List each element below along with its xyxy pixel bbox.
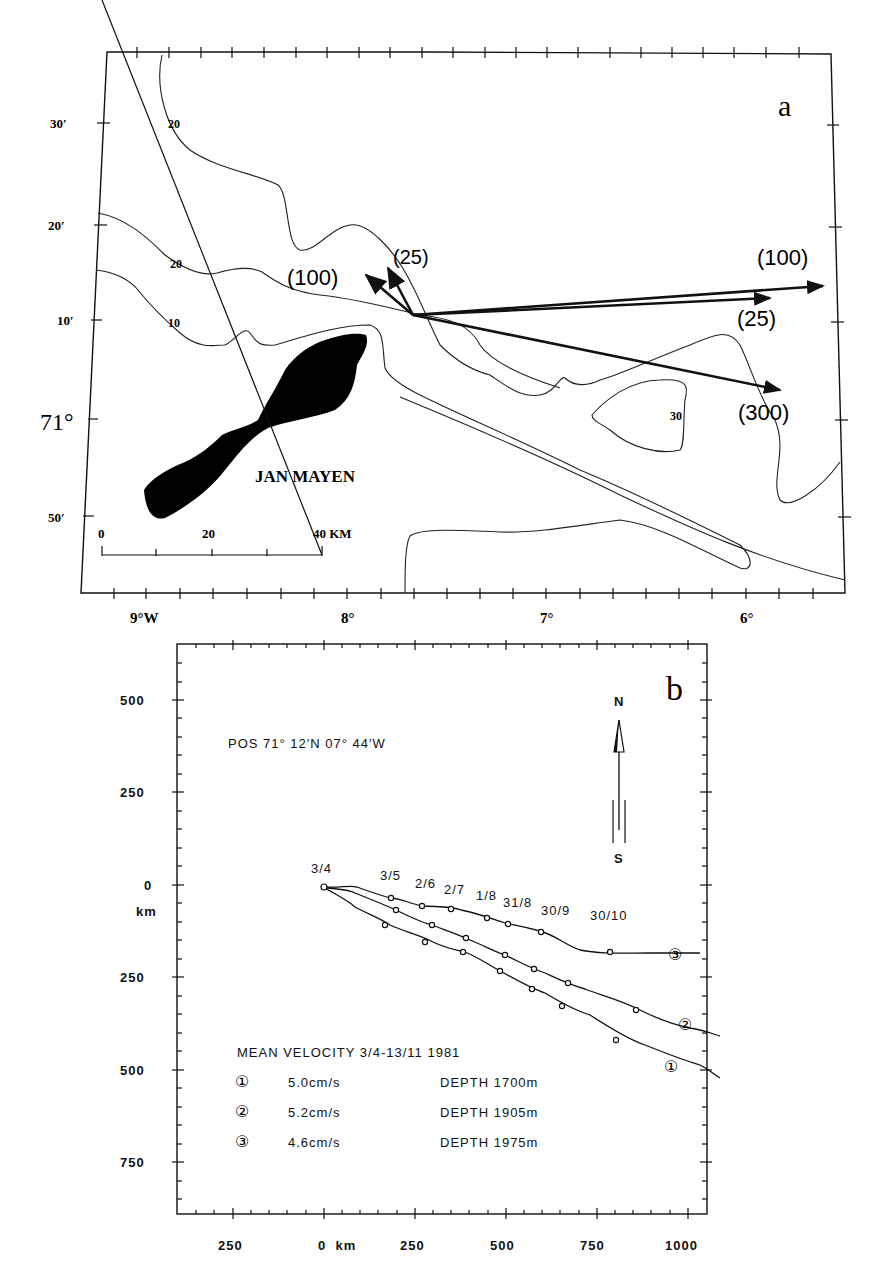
track-end-marker-1: ① [664,1058,678,1075]
vector-label-100-nw: (100) [287,265,338,290]
contour-label-30: 30 [670,409,682,423]
pvd-top-ticks [196,640,688,650]
lat-label-30: 30′ [50,116,67,131]
pvd-x-500: 500 [490,1238,515,1253]
legend-depth-3: DEPTH 1975m [440,1135,538,1150]
panel-label-a: a [778,89,791,122]
date-label-31-8: 31/8 [503,895,532,910]
pvd-y-750: 750 [120,1155,145,1170]
position-text: POS 71° 12′N 07° 44′W [228,736,386,751]
legend-marker-2: ② [235,1103,249,1120]
date-label-3-4: 3/4 [311,861,332,876]
island-label: JAN MAYEN [255,467,356,486]
north-arrow-icon: N S [613,694,625,866]
date-label-2-6: 2/6 [415,876,436,891]
legend-velocity-1: 5.0cm/s [288,1075,341,1090]
panel-label-b: b [666,670,683,707]
pvd-y-500-bottom: 500 [120,1063,145,1078]
jan-mayen-island [144,334,367,519]
vector-25-e [413,298,770,315]
panel-a-map: 30′ 20′ 10′ 71° 50′ 9°W 8° 7° 6° a 20 20… [40,0,851,626]
vector-300-ese [413,315,780,390]
lat-label-10: 10′ [57,313,74,328]
lon-label-8: 8° [341,610,355,626]
legend-marker-3: ③ [235,1133,249,1150]
contour-20-north [160,55,840,503]
lon-label-6: 6° [740,610,754,626]
lat-label-20: 20′ [48,218,65,233]
vector-label-25-e: (25) [737,306,776,331]
date-label-30-10: 30/10 [590,908,628,923]
scale-label-40km: 40 KM [313,526,352,541]
vector-label-300: (300) [738,400,789,425]
lat-label-50: 50′ [48,510,65,525]
pvd-right-ticks [700,663,712,1199]
lon-label-9w: 9°W [130,610,159,626]
compass-north: N [614,694,624,709]
legend-marker-1: ① [235,1073,249,1090]
pvd-x-0km: 0 km [318,1238,356,1253]
compass-south: S [614,851,624,866]
pvd-y-km: km [136,904,157,919]
legend-velocity-2: 5.2cm/s [288,1105,341,1120]
vector-label-100-e: (100) [757,245,808,270]
vector-100-nw [366,275,413,315]
map-frame [81,52,845,593]
contour-10 [96,270,750,593]
pvd-y-500-top: 500 [120,693,145,708]
pvd-left-ticks [172,663,184,1199]
contour-label-20-b: 20 [170,257,182,271]
pvd-x-1000: 1000 [665,1238,698,1253]
legend-depth-2: DEPTH 1905m [440,1105,538,1120]
legend-velocity-3: 4.6cm/s [288,1135,341,1150]
vector-label-25-nnw: (25) [393,246,429,268]
legend: MEAN VELOCITY 3/4-13/11 1981 ① 5.0cm/s D… [235,1045,538,1150]
lon-label-7: 7° [540,610,554,626]
legend-title: MEAN VELOCITY 3/4-13/11 1981 [237,1045,460,1060]
pvd-y-0: 0 [144,878,152,893]
track-end-marker-3: ③ [668,946,682,963]
pvd-y-250-top: 250 [120,785,145,800]
pvd-y-250-bottom: 250 [120,970,145,985]
scale-label-0: 0 [98,526,105,541]
lat-label-71: 71° [40,409,74,435]
panel-b-progressive-vector: 500 250 0 km 250 500 750 250 0 km 250 50… [120,640,720,1253]
figure: 30′ 20′ 10′ 71° 50′ 9°W 8° 7° 6° a 20 20… [0,0,883,1279]
pvd-x-750: 750 [580,1238,605,1253]
pvd-x-neg250: 250 [218,1238,243,1253]
date-label-30-9: 30/9 [541,903,570,918]
date-label-3-5: 3/5 [380,868,401,883]
scale-label-20: 20 [202,526,215,541]
legend-depth-1: DEPTH 1700m [440,1075,538,1090]
contour-label-20-a: 20 [168,117,180,131]
track-end-marker-2: ② [678,1016,692,1033]
pvd-x-250: 250 [400,1238,425,1253]
date-label-1-8: 1/8 [476,888,497,903]
contour-label-10: 10 [168,316,180,330]
map-right-ticks [827,125,851,517]
date-label-2-7: 2/7 [444,882,465,897]
